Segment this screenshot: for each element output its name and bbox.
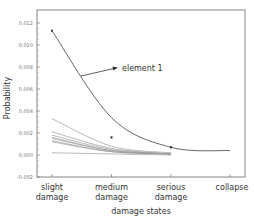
series-line [52,119,171,153]
series-lines [51,30,230,155]
y-tick-label: 0.012 [19,20,33,26]
y-axis-title: Probability [3,77,12,120]
series-line [52,31,230,151]
data-marker [51,30,53,32]
y-tick-label: 0.004 [19,108,33,114]
x-category-label: damage [95,193,128,202]
arrowhead-icon [113,67,119,71]
scatter-points [111,136,173,148]
scatter-point [170,146,172,148]
x-axis-title: damage states [111,207,171,216]
y-tick-label: 0.008 [19,64,33,70]
y-tick-label: 0.002 [19,130,33,136]
x-category-label: collapse [216,183,249,192]
series-line [52,142,171,154]
annotation-label: element 1 [122,64,163,73]
y-tick-label: 0.006 [19,86,33,92]
annotation-element-1: element 1 [81,64,163,76]
scatter-point [111,136,113,138]
x-category-label: serious [157,183,186,192]
x-category-label: medium [95,183,128,192]
x-axis-category-labels: slightdamagemediumdamageseriousdamagecol… [36,183,249,202]
x-category-label: slight [41,183,63,192]
damage-probability-chart: 0.0120.0100.0080.0060.0040.0020.000-0.00… [0,0,254,222]
y-tick-label: 0.000 [19,152,33,158]
y-tick-label: 0.010 [19,42,33,48]
y-axis-ticks: 0.0120.0100.0080.0060.0040.0020.000-0.00… [17,20,40,180]
y-tick-label: -0.002 [17,174,33,180]
x-axis-ticks [52,174,230,177]
x-category-label: damage [155,193,188,202]
annotation-arrow-icon [81,69,114,77]
x-category-label: damage [36,193,69,202]
